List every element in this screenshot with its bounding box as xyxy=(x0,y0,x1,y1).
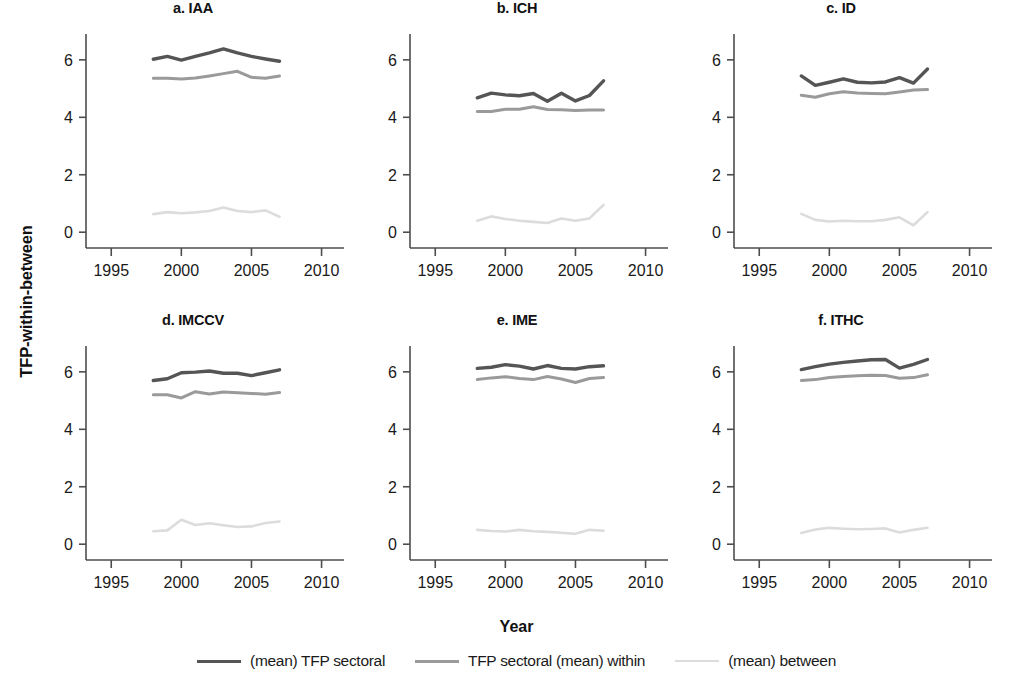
plot-area: 02461995200020052010 xyxy=(28,312,358,612)
x-axis-label: Year xyxy=(0,618,1033,636)
y-tick-label: 0 xyxy=(64,536,73,553)
y-tick-label: 4 xyxy=(712,421,721,438)
legend-item: (mean) TFP sectoral xyxy=(197,652,385,670)
series-line xyxy=(477,365,603,369)
series-line xyxy=(153,49,279,61)
panel-e: e. IME 02461995200020052010 xyxy=(352,312,682,612)
series-line xyxy=(153,71,279,79)
x-tick-label: 1995 xyxy=(93,574,129,591)
x-tick-label: 1995 xyxy=(417,262,453,279)
plot-area: 02461995200020052010 xyxy=(352,312,682,612)
chart-legend: (mean) TFP sectoralTFP sectoral (mean) w… xyxy=(0,652,1033,670)
y-tick-label: 4 xyxy=(64,421,73,438)
y-tick-label: 0 xyxy=(64,224,73,241)
plot-area: 02461995200020052010 xyxy=(352,0,682,300)
y-tick-label: 0 xyxy=(712,536,721,553)
x-tick-label: 2000 xyxy=(164,262,200,279)
x-tick-label: 2010 xyxy=(628,262,664,279)
x-tick-label: 2010 xyxy=(952,574,988,591)
y-tick-label: 2 xyxy=(64,479,73,496)
y-tick-label: 2 xyxy=(712,167,721,184)
y-tick-label: 0 xyxy=(388,224,397,241)
legend-item: (mean) between xyxy=(675,652,836,670)
series-line xyxy=(801,360,927,370)
x-tick-label: 2010 xyxy=(952,262,988,279)
x-tick-label: 2005 xyxy=(234,262,270,279)
y-tick-label: 0 xyxy=(712,224,721,241)
series-line xyxy=(153,208,279,217)
y-tick-label: 4 xyxy=(712,109,721,126)
y-tick-label: 4 xyxy=(64,109,73,126)
series-line xyxy=(153,392,279,398)
panel-d: d. IMCCV 02461995200020052010 xyxy=(28,312,358,612)
y-tick-label: 6 xyxy=(64,364,73,381)
y-tick-label: 6 xyxy=(388,364,397,381)
x-tick-label: 1995 xyxy=(741,574,777,591)
plot-area: 02461995200020052010 xyxy=(676,312,1006,612)
legend-line-swatch xyxy=(675,660,719,662)
panel-a: a. IAA 02461995200020052010 xyxy=(28,0,358,300)
x-tick-label: 2010 xyxy=(304,574,340,591)
panel-c: c. ID 02461995200020052010 xyxy=(676,0,1006,300)
x-tick-label: 1995 xyxy=(93,262,129,279)
y-tick-label: 2 xyxy=(388,479,397,496)
panel-b: b. ICH 02461995200020052010 xyxy=(352,0,682,300)
x-tick-label: 2010 xyxy=(304,262,340,279)
series-line xyxy=(153,370,279,381)
legend-line-swatch xyxy=(415,660,459,663)
y-tick-label: 6 xyxy=(64,52,73,69)
y-tick-label: 4 xyxy=(388,421,397,438)
y-tick-label: 4 xyxy=(388,109,397,126)
series-line xyxy=(153,520,279,531)
x-tick-label: 2005 xyxy=(882,574,918,591)
series-line xyxy=(477,107,603,112)
legend-item: TFP sectoral (mean) within xyxy=(415,652,645,670)
x-tick-label: 2005 xyxy=(882,262,918,279)
series-line xyxy=(477,376,603,382)
x-tick-label: 2000 xyxy=(812,574,848,591)
y-tick-label: 0 xyxy=(388,536,397,553)
y-tick-label: 6 xyxy=(712,52,721,69)
y-tick-label: 2 xyxy=(64,167,73,184)
series-line xyxy=(477,530,603,534)
x-tick-label: 2005 xyxy=(558,262,594,279)
legend-label: (mean) between xyxy=(728,652,836,670)
x-tick-label: 2010 xyxy=(628,574,664,591)
plot-area: 02461995200020052010 xyxy=(676,0,1006,300)
legend-label: (mean) TFP sectoral xyxy=(250,652,385,670)
y-tick-label: 2 xyxy=(712,479,721,496)
panel-f: f. ITHC 02461995200020052010 xyxy=(676,312,1006,612)
series-line xyxy=(801,69,927,85)
y-tick-label: 2 xyxy=(388,167,397,184)
series-line xyxy=(477,81,603,101)
series-line xyxy=(801,89,927,97)
series-line xyxy=(801,212,927,225)
legend-line-swatch xyxy=(197,660,241,663)
y-tick-label: 6 xyxy=(388,52,397,69)
series-line xyxy=(801,375,927,381)
x-tick-label: 2005 xyxy=(234,574,270,591)
x-tick-label: 1995 xyxy=(741,262,777,279)
x-tick-label: 2005 xyxy=(558,574,594,591)
x-tick-label: 2000 xyxy=(488,262,524,279)
x-tick-label: 1995 xyxy=(417,574,453,591)
plot-area: 02461995200020052010 xyxy=(28,0,358,300)
x-tick-label: 2000 xyxy=(164,574,200,591)
x-tick-label: 2000 xyxy=(488,574,524,591)
legend-label: TFP sectoral (mean) within xyxy=(468,652,645,670)
figure-root: TFP-within-between a. IAA 02461995200020… xyxy=(0,0,1033,684)
series-line xyxy=(801,528,927,533)
series-line xyxy=(477,205,603,223)
y-tick-label: 6 xyxy=(712,364,721,381)
x-tick-label: 2000 xyxy=(812,262,848,279)
